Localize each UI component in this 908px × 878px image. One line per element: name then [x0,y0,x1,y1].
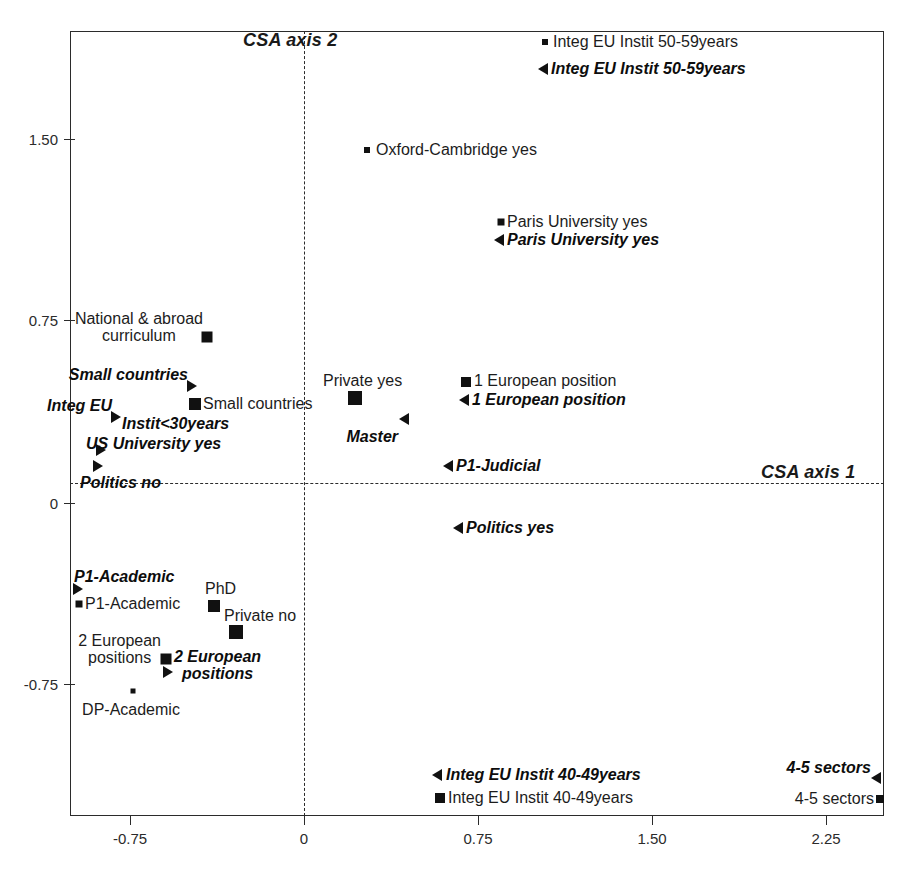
square-point-marker [161,654,172,665]
square-point-marker [229,625,243,639]
y-tick-mark [64,684,75,685]
x-tick-label: 0.75 [463,830,492,847]
square-point-marker [208,600,220,612]
square-point-marker [202,332,213,343]
point-label: Politics yes [466,520,554,537]
point-label: US University yes [86,436,221,453]
square-point-marker [498,219,505,226]
point-label: PhD [205,581,236,598]
point-label: Master [346,429,398,446]
x-tick-mark [652,816,653,825]
point-label: Oxford-Cambridge yes [376,142,537,159]
square-point-marker [542,39,548,45]
square-point-marker [131,689,136,694]
axis-1-title: CSA axis 1 [761,462,855,483]
point-label: P1-Judicial [456,458,540,475]
x-tick-mark [478,816,479,825]
y-tick-label: 0.75 [6,312,58,329]
point-label: Paris University yes [507,232,659,249]
point-label: Private no [224,608,296,625]
point-label: Integ EU Instit 50-59years [553,34,738,51]
square-point-marker [876,795,884,803]
point-label: 1 European position [472,392,626,409]
point-label: P1-Academic [85,596,180,613]
x-tick-label: 2.25 [811,830,840,847]
triangle-point-marker [494,234,504,246]
triangle-point-marker [871,772,881,784]
y-tick-mark [64,503,75,504]
point-label: 2 European positions [174,649,261,683]
point-label: Small countries [69,367,188,384]
point-label: National & abroad curriculum [75,311,203,345]
triangle-point-marker [453,522,463,534]
point-label: Integ EU Instit 50-59years [551,61,746,78]
x-tick-label: 1.50 [637,830,666,847]
point-label: Small countries [203,396,312,413]
point-label: DP-Academic [82,702,180,719]
square-point-marker [348,391,362,405]
triangle-point-marker [187,380,197,392]
triangle-point-marker [443,460,453,472]
x-tick-label: -0.75 [113,830,147,847]
vertical-zero-axis-line [304,31,305,816]
point-label: Private yes [323,373,402,390]
triangle-point-marker [163,666,173,678]
y-tick-mark [64,139,75,140]
point-label: 4-5 sectors [787,760,872,777]
point-label: Paris University yes [507,214,647,231]
y-tick-label: 0 [6,495,58,512]
horizontal-zero-axis-line [70,483,884,484]
square-point-marker [364,147,370,153]
point-label: 4-5 sectors [795,791,874,808]
square-point-marker [461,377,471,387]
point-label: Integ EU Instit 40-49years [448,790,633,807]
point-label: Integ EU Instit 40-49years [446,767,641,784]
square-point-marker [435,793,445,803]
axis-2-title: CSA axis 2 [243,30,337,51]
y-tick-label: 1.50 [6,131,58,148]
csa-scatter-plot: CSA axis 2 CSA axis 1 -0.7500.751.502.25… [0,0,908,878]
point-label: P1-Academic [74,569,175,586]
point-label: 2 European positions [78,633,161,667]
point-label: Politics no [80,475,161,492]
y-tick-label: -0.75 [6,676,58,693]
triangle-point-marker [111,411,121,423]
x-tick-mark [304,816,305,825]
triangle-point-marker [399,413,409,425]
point-label: Integ EU [47,398,112,415]
triangle-point-marker [538,63,548,75]
x-tick-mark [826,816,827,825]
y-tick-mark [64,320,75,321]
triangle-point-marker [432,769,442,781]
triangle-point-marker [459,394,469,406]
point-label: 1 European position [474,373,616,390]
triangle-point-marker [93,460,103,472]
point-label: Instit<30years [122,416,229,433]
x-tick-mark [130,816,131,825]
square-point-marker [189,398,201,410]
square-point-marker [76,601,83,608]
x-tick-label: 0 [300,830,308,847]
